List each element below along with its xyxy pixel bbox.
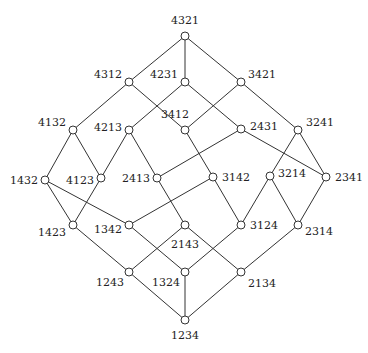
- edge-4132-4123: [73, 130, 101, 178]
- edge-4213-2413: [129, 130, 157, 178]
- node-4312: [125, 78, 133, 86]
- node-label-4231: 4231: [150, 68, 178, 81]
- node-3214: [266, 172, 274, 180]
- edge-3142-3124: [213, 177, 241, 225]
- node-1432: [41, 176, 49, 184]
- node-2134: [237, 268, 245, 276]
- node-label-4123: 4123: [66, 174, 94, 187]
- node-4231: [181, 78, 189, 86]
- node-1342: [125, 221, 133, 229]
- node-3412: [181, 126, 189, 134]
- node-2143: [181, 221, 189, 229]
- node-label-3124: 3124: [250, 219, 278, 232]
- node-3421: [237, 78, 245, 86]
- node-label-1234: 1234: [171, 329, 199, 342]
- edge-4213-4123: [101, 130, 129, 178]
- edge-2341-2314: [298, 177, 326, 225]
- node-label-3412: 3412: [161, 108, 189, 121]
- node-label-1342: 1342: [94, 223, 122, 236]
- node-1324: [181, 268, 189, 276]
- node-1243: [125, 268, 133, 276]
- node-2314: [294, 221, 302, 229]
- node-4213: [125, 126, 133, 134]
- node-label-2431: 2431: [250, 120, 278, 133]
- node-3142: [209, 173, 217, 181]
- node-label-2314: 2314: [305, 225, 333, 238]
- node-3241: [294, 126, 302, 134]
- node-label-3421: 3421: [248, 68, 276, 81]
- node-4132: [69, 126, 77, 134]
- node-label-4321: 4321: [171, 14, 199, 27]
- node-2341: [322, 173, 330, 181]
- edge-4132-1432: [45, 130, 73, 180]
- node-2413: [153, 174, 161, 182]
- node-label-1423: 1423: [38, 226, 66, 239]
- edge-2134-1234: [185, 272, 241, 320]
- node-1234: [181, 316, 189, 324]
- node-2431: [237, 125, 245, 133]
- node-label-1324: 1324: [152, 276, 180, 289]
- node-4123: [97, 174, 105, 182]
- node-label-4132: 4132: [38, 116, 66, 129]
- node-label-1432: 1432: [10, 174, 38, 187]
- node-label-3142: 3142: [222, 171, 250, 184]
- weak-order-lattice-diagram: 4321431242313421413242133412243132411432…: [0, 0, 368, 353]
- node-label-4312: 4312: [94, 68, 122, 81]
- edge-2314-2134: [241, 225, 298, 272]
- node-3124: [237, 221, 245, 229]
- node-4321: [181, 32, 189, 40]
- edge-3214-2314: [270, 176, 298, 225]
- label-layer: 4321431242313421413242133412243132411432…: [10, 14, 363, 342]
- node-label-2413: 2413: [122, 172, 150, 185]
- node-label-3214: 3214: [278, 167, 306, 180]
- edge-4321-3421: [185, 36, 241, 82]
- node-1423: [69, 221, 77, 229]
- node-label-4213: 4213: [94, 121, 122, 134]
- node-label-1243: 1243: [96, 276, 124, 289]
- node-label-2143: 2143: [171, 238, 199, 251]
- node-label-3241: 3241: [306, 116, 334, 129]
- node-label-2341: 2341: [335, 171, 363, 184]
- node-label-2134: 2134: [248, 277, 276, 290]
